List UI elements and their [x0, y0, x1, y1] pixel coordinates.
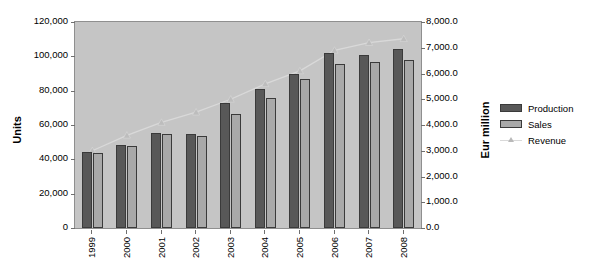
bar-group [393, 22, 414, 228]
x-axis-tick-label: 2005 [293, 231, 304, 265]
y-axis-right-tick-label: 2,000.0 [426, 171, 458, 181]
y-axis-right-tick-label: 8,000.0 [426, 16, 458, 26]
y-axis-right-tickmark [421, 22, 425, 23]
y-axis-right-tickmark [421, 99, 425, 100]
bar-sales [231, 114, 241, 228]
x-axis-tick-label: 2007 [363, 231, 374, 265]
x-axis-tick-label: 2006 [328, 231, 339, 265]
bar-group [82, 22, 103, 228]
y-axis-right-tickmark [421, 177, 425, 178]
y-axis-left-tickmark [71, 91, 75, 92]
x-axis-tick-label: 2001 [155, 231, 166, 265]
bar-sales [266, 98, 276, 228]
bar-sales [300, 79, 310, 228]
y-axis-left-tickmark [71, 22, 75, 23]
y-axis-left-tick-label: 0 [63, 222, 68, 232]
legend-line-marker-icon [500, 136, 522, 144]
y-axis-left-tickmark [71, 159, 75, 160]
x-axis-tick-label: 2000 [120, 231, 131, 265]
bar-group [289, 22, 310, 228]
x-axis-tick-label: 1999 [86, 231, 97, 265]
y-axis-right-tickmark [421, 74, 425, 75]
bar-group [116, 22, 137, 228]
y-axis-right-tickmark [421, 151, 425, 152]
y-axis-left-tick-label: 60,000 [39, 119, 68, 129]
bar-sales [404, 60, 414, 228]
legend-item-label: Revenue [528, 135, 566, 146]
bar-sales [197, 136, 207, 228]
bar-production [186, 134, 196, 228]
y-axis-left-tick-label: 20,000 [39, 188, 68, 198]
legend-item-label: Production [528, 103, 573, 114]
bar-production [220, 103, 230, 228]
y-axis-right-tick-label: 3,000.0 [426, 145, 458, 155]
legend-item[interactable]: Revenue [500, 132, 590, 148]
legend-swatch-icon [500, 104, 522, 112]
x-axis-tick-label: 2002 [190, 231, 201, 265]
x-axis-labels: 1999200020012002200320042005200620072008 [74, 230, 422, 273]
chart-legend: ProductionSalesRevenue [500, 100, 590, 148]
legend-item-label: Sales [528, 119, 552, 130]
y-axis-right-tick-label: 0.0 [426, 222, 439, 232]
y-axis-right-tickmark [421, 228, 425, 229]
bar-sales [127, 146, 137, 228]
bar-production [255, 89, 265, 228]
revenue-line-path [92, 39, 403, 151]
bar-group [186, 22, 207, 228]
bar-production [393, 49, 403, 228]
y-axis-left-ticks: 020,00040,00060,00080,000100,000120,000 [16, 0, 68, 273]
bar-production [82, 152, 92, 228]
bar-production [359, 55, 369, 228]
y-axis-left-tickmark [71, 194, 75, 195]
bar-group [151, 22, 172, 228]
plot-area [74, 21, 422, 229]
bar-group [220, 22, 241, 228]
bar-production [116, 145, 126, 228]
y-axis-left-tickmark [71, 228, 75, 229]
y-axis-left-tick-label: 80,000 [39, 85, 68, 95]
y-axis-left-tickmark [71, 125, 75, 126]
y-axis-right-tickmark [421, 202, 425, 203]
y-axis-left-tick-label: 120,000 [34, 16, 68, 26]
bar-sales [335, 64, 345, 228]
y-axis-right-ticks: 0.01,000.02,000.03,000.04,000.05,000.06,… [426, 0, 482, 273]
bar-production [151, 133, 161, 228]
y-axis-right-tick-label: 7,000.0 [426, 42, 458, 52]
y-axis-right-tickmark [421, 48, 425, 49]
y-axis-left-tick-label: 40,000 [39, 153, 68, 163]
y-axis-right-tick-label: 1,000.0 [426, 196, 458, 206]
x-axis-tick-label: 2004 [259, 231, 270, 265]
bar-sales [162, 134, 172, 228]
chart-container: Units Eur million 020,00040,00060,00080,… [0, 0, 595, 273]
bar-production [324, 53, 334, 228]
y-axis-left-tick-label: 100,000 [34, 50, 68, 60]
legend-item[interactable]: Sales [500, 116, 590, 132]
y-axis-right-tick-label: 4,000.0 [426, 119, 458, 129]
y-axis-right-tick-label: 6,000.0 [426, 68, 458, 78]
legend-item[interactable]: Production [500, 100, 590, 116]
y-axis-right-tickmark [421, 125, 425, 126]
bar-sales [370, 62, 380, 228]
bar-group [324, 22, 345, 228]
bar-group [255, 22, 276, 228]
bar-group [359, 22, 380, 228]
bar-sales [93, 153, 103, 228]
x-axis-tick-label: 2003 [224, 231, 235, 265]
y-axis-right-tick-label: 5,000.0 [426, 93, 458, 103]
bar-production [289, 74, 299, 228]
x-axis-tick-label: 2008 [397, 231, 408, 265]
y-axis-left-tickmark [71, 56, 75, 57]
legend-swatch-icon [500, 120, 522, 128]
